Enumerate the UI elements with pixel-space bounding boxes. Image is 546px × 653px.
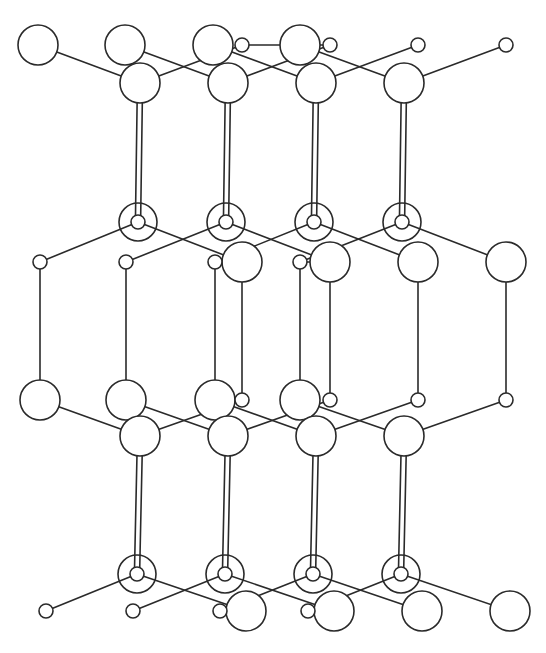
double-bond-line — [222, 436, 225, 574]
small-atom — [126, 604, 140, 618]
double-bond — [223, 83, 230, 222]
ringed-atom — [294, 555, 332, 593]
double-bond-line — [229, 83, 231, 222]
double-bond — [399, 83, 406, 222]
ringed-atom-inner — [307, 215, 321, 229]
ringed-atom — [207, 203, 245, 241]
atom-layer — [18, 25, 530, 631]
large-atom — [20, 380, 60, 420]
ringed-atom — [206, 555, 244, 593]
ringed-atom-inner — [306, 567, 320, 581]
large-atom — [310, 242, 350, 282]
double-bond — [135, 83, 142, 222]
single-bond — [133, 574, 225, 611]
small-atom — [208, 255, 222, 269]
small-atom — [33, 255, 47, 269]
large-atom — [120, 416, 160, 456]
double-bond-line — [398, 436, 401, 574]
bond-layer — [38, 45, 510, 611]
lattice-svg — [0, 0, 546, 653]
ringed-atom-inner — [394, 567, 408, 581]
ringed-atom — [295, 203, 333, 241]
ringed-atom — [118, 555, 156, 593]
large-atom — [226, 591, 266, 631]
double-bond-line — [310, 436, 313, 574]
large-atom — [486, 242, 526, 282]
crystal-lattice-diagram — [0, 0, 546, 653]
large-atom — [195, 380, 235, 420]
large-atom — [490, 591, 530, 631]
ringed-atom-inner — [131, 215, 145, 229]
small-atom — [293, 255, 307, 269]
large-atom — [296, 416, 336, 456]
small-atom — [39, 604, 53, 618]
large-atom — [18, 25, 58, 65]
double-bond-line — [405, 83, 407, 222]
large-atom — [208, 63, 248, 103]
ringed-atom — [119, 203, 157, 241]
large-atom — [106, 380, 146, 420]
ringed-atom-inner — [218, 567, 232, 581]
small-atom — [499, 38, 513, 52]
small-atom — [499, 393, 513, 407]
double-bond-line — [134, 436, 137, 574]
large-atom — [193, 25, 233, 65]
large-atom — [280, 380, 320, 420]
double-bond-line — [223, 83, 225, 222]
small-atom — [235, 38, 249, 52]
large-atom — [105, 25, 145, 65]
large-atom — [208, 416, 248, 456]
small-atom — [235, 393, 249, 407]
large-atom — [398, 242, 438, 282]
large-atom — [296, 63, 336, 103]
small-atom — [323, 38, 337, 52]
double-bond — [311, 83, 318, 222]
double-bond-line — [135, 83, 137, 222]
ringed-atom-inner — [219, 215, 233, 229]
large-atom — [222, 242, 262, 282]
double-bond-line — [399, 83, 401, 222]
double-bond-line — [141, 83, 143, 222]
ringed-atom — [383, 203, 421, 241]
large-atom — [120, 63, 160, 103]
double-bond-line — [317, 83, 319, 222]
small-atom — [323, 393, 337, 407]
ringed-atom — [382, 555, 420, 593]
double-bond-line — [311, 83, 313, 222]
large-atom — [402, 591, 442, 631]
large-atom — [384, 63, 424, 103]
small-atom — [301, 604, 315, 618]
ringed-atom-inner — [130, 567, 144, 581]
large-atom — [384, 416, 424, 456]
small-atom — [411, 38, 425, 52]
large-atom — [314, 591, 354, 631]
small-atom — [411, 393, 425, 407]
single-bond — [46, 574, 137, 611]
small-atom — [213, 604, 227, 618]
small-atom — [119, 255, 133, 269]
ringed-atom-inner — [395, 215, 409, 229]
large-atom — [280, 25, 320, 65]
